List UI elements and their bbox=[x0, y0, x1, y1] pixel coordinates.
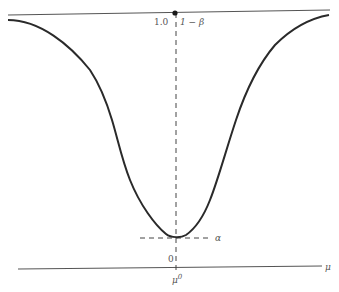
label-one-minus-beta: 1 − β bbox=[180, 17, 204, 27]
upper-bound-line bbox=[8, 10, 330, 15]
label-mu-zero-sup: 0 bbox=[178, 273, 183, 281]
label-zero: 0 bbox=[168, 254, 174, 264]
label-mu-zero: μ0 bbox=[172, 273, 183, 285]
mu-axis-line bbox=[18, 266, 322, 269]
label-alpha: α bbox=[215, 233, 221, 243]
power-curve bbox=[8, 15, 329, 237]
label-mu-axis: μ bbox=[325, 262, 331, 272]
max-power-dot bbox=[172, 10, 177, 15]
power-curve-diagram: 1.0 1 − β α 0 μ0 μ bbox=[0, 0, 339, 292]
label-1-0: 1.0 bbox=[154, 17, 169, 27]
